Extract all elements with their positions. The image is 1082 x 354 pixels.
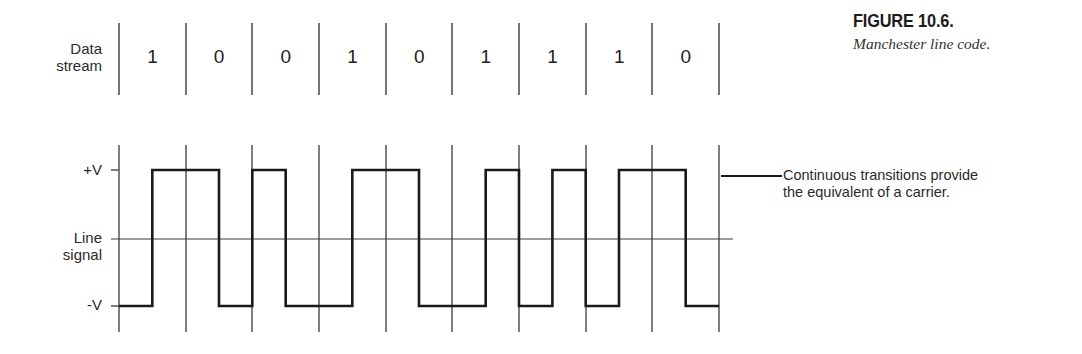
level-high-label: +V — [60, 161, 102, 178]
bit-value: 0 — [253, 46, 319, 68]
bit-value: 0 — [653, 46, 719, 68]
figure-number: FIGURE 10.6. — [853, 10, 954, 32]
bit-value: 1 — [586, 46, 652, 68]
voltage-level-ticks — [111, 170, 119, 306]
manchester-line-code-figure: Data stream 100101110 +V Line signal -V … — [0, 0, 1082, 354]
line-signal-label: Line signal — [40, 229, 102, 263]
bit-value: 0 — [186, 46, 252, 68]
bit-value: 0 — [386, 46, 452, 68]
bit-value: 1 — [453, 46, 519, 68]
callout-line2: the equivalent of a carrier. — [783, 184, 978, 201]
carrier-callout: Continuous transitions provide the equiv… — [783, 167, 978, 201]
manchester-waveform — [119, 170, 719, 306]
callout-line1: Continuous transitions provide — [783, 167, 978, 184]
bit-value: 1 — [120, 46, 186, 68]
figure-caption: Manchester line code. — [853, 35, 990, 53]
data-stream-label-line1: Data — [40, 40, 102, 57]
level-low-label: -V — [60, 296, 102, 313]
line-signal-label-line2: signal — [40, 246, 102, 263]
data-stream-label-line2: stream — [40, 57, 102, 74]
bit-value: 1 — [520, 46, 586, 68]
line-signal-label-line1: Line — [40, 229, 102, 246]
data-stream-label: Data stream — [40, 40, 102, 74]
bit-value: 1 — [320, 46, 386, 68]
